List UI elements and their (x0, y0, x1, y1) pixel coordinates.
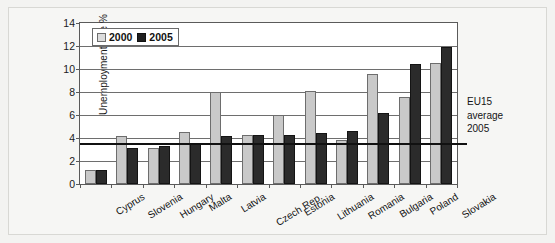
bar-2000 (399, 97, 410, 184)
bar-group (143, 23, 174, 184)
bar-2000 (336, 140, 347, 184)
legend-label-2005: 2005 (149, 31, 172, 43)
x-tick-mark (331, 184, 332, 188)
y-tick-label-2: 2 (69, 155, 75, 167)
legend-item-2005: 2005 (137, 31, 172, 43)
x-tick-mark (237, 184, 238, 188)
bar-2005 (378, 113, 389, 184)
legend-swatch-2000 (97, 33, 106, 42)
y-tick-label-10: 10 (63, 63, 75, 75)
x-tick-mark (80, 184, 81, 188)
eu15-annotation-line-1: EU15 (467, 95, 503, 109)
x-tick-mark (457, 184, 458, 188)
bar-group (269, 23, 300, 184)
legend-label-2000: 2000 (109, 31, 132, 43)
x-tick-mark (394, 184, 395, 188)
bar-2005 (190, 144, 201, 184)
chart-legend: 2000 2005 (92, 28, 179, 46)
y-tick-label-14: 14 (63, 17, 75, 29)
bar-2005 (347, 131, 358, 184)
eu15-annotation-line-3: 2005 (467, 122, 503, 136)
bar-2000 (367, 74, 378, 184)
bar-group (331, 23, 362, 184)
bar-2005 (441, 47, 452, 184)
legend-swatch-2005 (137, 33, 146, 42)
bar-2005 (159, 146, 170, 184)
bar-group (206, 23, 237, 184)
bar-2005 (410, 64, 421, 184)
x-tick-mark (269, 184, 270, 188)
bar-group (300, 23, 331, 184)
y-tick-label-4: 4 (69, 132, 75, 144)
legend-item-2000: 2000 (97, 31, 132, 43)
x-tick-mark (300, 184, 301, 188)
bar-2000 (273, 115, 284, 184)
bar-group (174, 23, 205, 184)
bar-2005 (316, 133, 327, 184)
bar-2000 (305, 91, 316, 184)
eu15-line-extension (457, 143, 467, 145)
bar-group (111, 23, 142, 184)
bar-2005 (96, 170, 107, 184)
eu15-annotation-line-2: average (467, 109, 503, 123)
x-tick-mark (143, 184, 144, 188)
x-tick-mark (426, 184, 427, 188)
chart-figure: Unemployment rate % 02468101214 CyprusSl… (0, 0, 555, 243)
y-tick-label-0: 0 (69, 178, 75, 190)
eu15-average-reference-line (80, 143, 457, 145)
bar-2000 (179, 132, 190, 184)
bar-2005 (127, 148, 138, 184)
x-tick-mark (206, 184, 207, 188)
bar-group (237, 23, 268, 184)
bar-group (394, 23, 425, 184)
bar-group (80, 23, 111, 184)
bar-group (363, 23, 394, 184)
y-tick-label-8: 8 (69, 86, 75, 98)
y-tick-label-6: 6 (69, 109, 75, 121)
x-tick-mark (174, 184, 175, 188)
eu15-average-annotation: EU15 average 2005 (467, 95, 503, 136)
x-tick-mark (363, 184, 364, 188)
x-tick-mark (111, 184, 112, 188)
bar-series-container (80, 23, 457, 184)
bar-2000 (85, 170, 96, 184)
bar-2000 (148, 148, 159, 184)
y-tick-label-12: 12 (63, 40, 75, 52)
bar-2000 (430, 63, 441, 184)
plot-area: Unemployment rate % 02468101214 (79, 22, 458, 185)
bar-2000 (210, 92, 221, 184)
bar-group (426, 23, 457, 184)
